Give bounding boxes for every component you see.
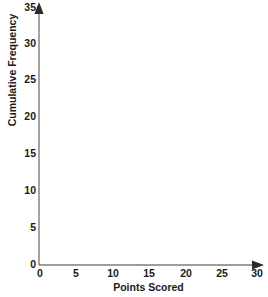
axes-graphic <box>0 0 268 297</box>
x-tick-label: 5 <box>61 268 91 279</box>
y-tick-label: 10 <box>14 185 36 196</box>
x-tick-label: 20 <box>171 268 201 279</box>
x-axis-title: Points Scored <box>39 281 258 293</box>
y-axis-title: Cumulative Frequency <box>6 0 18 150</box>
y-axis-title-wrapper: Cumulative Frequency <box>6 0 22 150</box>
x-tick-label: 0 <box>25 268 55 279</box>
x-tick-label: 15 <box>134 268 164 279</box>
cumulative-frequency-chart: 0 5 10 15 20 25 30 35 0 5 10 15 20 25 30… <box>0 0 268 297</box>
y-tick-label: 5 <box>14 222 36 233</box>
x-tick-label: 25 <box>207 268 237 279</box>
x-tick-label: 10 <box>98 268 128 279</box>
x-axis-tick-labels: 0 5 10 15 20 25 30 <box>0 268 268 282</box>
x-tick-label: 30 <box>242 268 268 279</box>
